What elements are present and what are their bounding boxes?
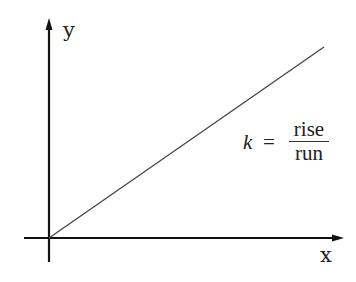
y-axis-arrow-icon [46, 18, 53, 30]
formula-equals: = [263, 130, 275, 155]
x-axis-arrow-icon [332, 235, 344, 242]
formula-denominator: run [289, 141, 329, 166]
x-axis-label: x [320, 243, 332, 267]
formula-variable: k [243, 130, 252, 155]
y-axis-label: y [62, 18, 75, 42]
formula-numerator: rise [289, 117, 329, 142]
slope-formula: k = rise run [243, 120, 343, 164]
